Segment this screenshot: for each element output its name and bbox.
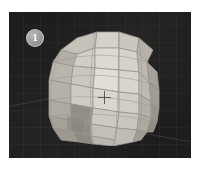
figure-panel: 1	[0, 0, 199, 173]
uv-sphere-mesh[interactable]	[27, 24, 173, 146]
3d-viewport[interactable]: 1	[9, 12, 191, 158]
panel-number-badge: 1	[26, 29, 44, 47]
